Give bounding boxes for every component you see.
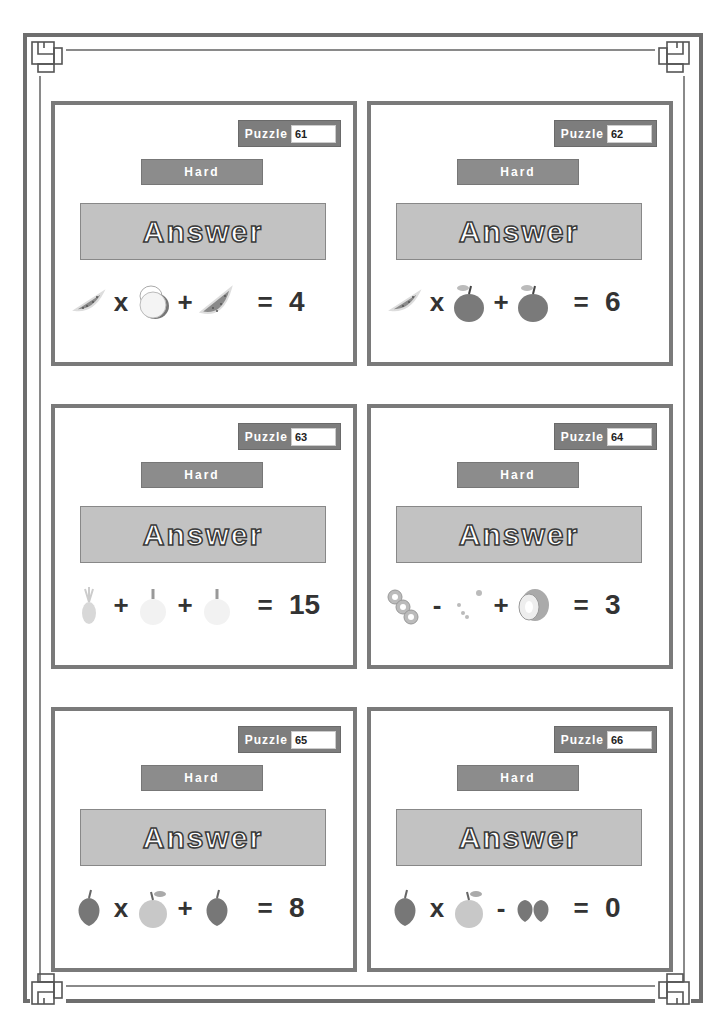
difficulty-badge: Hard [141,765,263,791]
puzzle-card: Puzzle61 Hard Answer x + = 4 [51,101,357,366]
puzzle-label: Puzzle [561,430,604,444]
puzzle-number-tag: Puzzle64 [554,423,657,450]
watermelon-slice-icon [69,280,109,324]
equals-sign: = [247,590,283,621]
equation: x + = 4 [69,277,343,327]
puzzle-card: Puzzle66 Hard Answer x - = 0 [367,707,673,972]
watermelon-slice-icon [197,280,237,324]
pineapple-icon [69,583,109,627]
coconut-halves-icon [133,280,173,324]
answer-box: Answer [396,809,642,866]
puzzle-label: Puzzle [245,127,288,141]
operator: x [109,287,133,318]
puzzle-number: 64 [607,428,652,446]
equation: x + = 8 [69,883,343,933]
puzzle-label: Puzzle [561,127,604,141]
orange-icon [133,886,173,930]
equation: + + = 15 [69,580,343,630]
strawberry-icon [197,886,237,930]
result-value: 6 [605,286,621,318]
puzzle-card: Puzzle63 Hard Answer + + = 15 [51,404,357,669]
result-value: 0 [605,892,621,924]
operator: x [425,287,449,318]
equals-sign: = [563,590,599,621]
operator: + [173,590,197,621]
corner-ornament-icon [30,40,66,76]
answer-box: Answer [80,203,326,260]
puzzle-number-tag: Puzzle61 [238,120,341,147]
corner-ornament-icon [655,982,691,1018]
equation: - + = 3 [385,580,659,630]
difficulty-badge: Hard [457,159,579,185]
operator: x [109,893,133,924]
answer-box: Answer [396,506,642,563]
apple-icon [449,280,489,324]
difficulty-badge: Hard [457,765,579,791]
equals-sign: = [247,287,283,318]
pear-icon [197,583,237,627]
seeds-icon [449,583,489,627]
puzzle-card: Puzzle65 Hard Answer x + = 8 [51,707,357,972]
difficulty-badge: Hard [141,159,263,185]
operator: + [173,287,197,318]
puzzle-label: Puzzle [561,733,604,747]
puzzle-number-tag: Puzzle65 [238,726,341,753]
operator: - [425,590,449,621]
result-value: 3 [605,589,621,621]
kiwi-slices-icon [385,583,425,627]
watermelon-slice-icon [385,280,425,324]
equation: x + = 6 [385,277,659,327]
corner-ornament-icon [655,40,691,76]
operator: + [489,287,513,318]
result-value: 4 [289,286,305,318]
equation: x - = 0 [385,883,659,933]
puzzle-number: 66 [607,731,652,749]
operator: + [109,590,133,621]
pear-icon [133,583,173,627]
puzzle-label: Puzzle [245,430,288,444]
puzzle-label: Puzzle [245,733,288,747]
kiwi-icon [513,583,553,627]
equals-sign: = [247,893,283,924]
difficulty-badge: Hard [457,462,579,488]
puzzle-number: 62 [607,125,652,143]
operator: x [425,893,449,924]
answer-box: Answer [80,809,326,866]
result-value: 15 [289,589,320,621]
orange-icon [449,886,489,930]
strawberry-icon [69,886,109,930]
difficulty-badge: Hard [141,462,263,488]
puzzle-number-tag: Puzzle62 [554,120,657,147]
equals-sign: = [563,893,599,924]
result-value: 8 [289,892,305,924]
answer-box: Answer [396,203,642,260]
operator: - [489,893,513,924]
operator: + [173,893,197,924]
corner-ornament-icon [30,982,66,1018]
equals-sign: = [563,287,599,318]
apple-icon [513,280,553,324]
puzzle-number-tag: Puzzle63 [238,423,341,450]
strawberry-icon [385,886,425,930]
puzzle-number: 65 [291,731,336,749]
answer-box: Answer [80,506,326,563]
puzzle-number: 61 [291,125,336,143]
two-strawberries-icon [513,886,553,930]
puzzle-card: Puzzle64 Hard Answer - + = 3 [367,404,673,669]
puzzle-card: Puzzle62 Hard Answer x + = 6 [367,101,673,366]
puzzle-number: 63 [291,428,336,446]
puzzle-number-tag: Puzzle66 [554,726,657,753]
operator: + [489,590,513,621]
